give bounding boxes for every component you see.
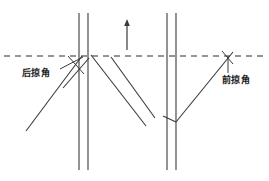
backward-sweep-angle-label: 后掠角	[22, 67, 50, 78]
diagram-canvas: 后掠角 前掠角	[0, 0, 269, 181]
forward-sweep-angle-label: 前掠角	[222, 74, 250, 85]
sweep-angle-diagram: 后掠角 前掠角	[0, 0, 269, 181]
